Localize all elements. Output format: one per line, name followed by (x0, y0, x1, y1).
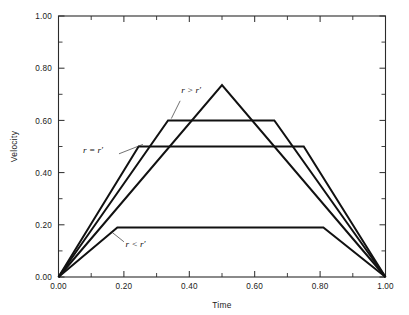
y-tick-label-5: 1.00 (35, 12, 52, 21)
x-tick-label-0: 0.00 (50, 282, 67, 291)
annotation-r-less: r < r′ (126, 239, 147, 249)
annotation-r-greater: r > r′ (181, 85, 202, 95)
x-tick-label-3: 0.60 (246, 282, 263, 291)
velocity-time-chart: 0.000.200.400.600.801.00 0.000.200.400.6… (0, 0, 409, 315)
chart-background (0, 0, 409, 315)
y-tick-label-3: 0.60 (35, 117, 52, 126)
y-axis-title: Velocity (9, 130, 19, 162)
x-axis-title: Time (212, 300, 232, 310)
y-tick-label-0: 0.00 (35, 273, 52, 282)
x-tick-label-2: 0.40 (181, 282, 198, 291)
annotation-r-equal: r = r′ (83, 145, 104, 155)
chart-figure: 0.000.200.400.600.801.00 0.000.200.400.6… (0, 0, 409, 315)
x-tick-label-1: 0.20 (116, 282, 133, 291)
y-tick-label-2: 0.40 (35, 169, 52, 178)
y-tick-label-4: 0.80 (35, 64, 52, 73)
x-tick-label-4: 0.80 (312, 282, 329, 291)
y-tick-label-1: 0.20 (35, 221, 52, 230)
x-tick-label-5: 1.00 (377, 282, 394, 291)
